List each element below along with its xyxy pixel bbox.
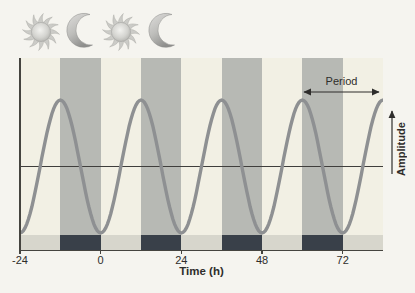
strip-night <box>302 235 342 250</box>
circadian-rhythm-figure: -240244872 Time (h) Period Amplitude <box>0 0 415 293</box>
strip-day <box>262 235 302 250</box>
strip-day <box>20 235 60 250</box>
strip-night <box>141 235 181 250</box>
moon-icon <box>62 6 100 54</box>
strip-night <box>222 235 262 250</box>
period-label: Period <box>302 75 381 87</box>
day-night-strip <box>20 235 383 250</box>
moon-icon <box>144 6 182 54</box>
x-axis-title: Time (h) <box>20 265 383 277</box>
rhythm-curve-path <box>20 100 383 233</box>
strip-night <box>60 235 100 250</box>
y-axis-line <box>19 58 21 250</box>
amplitude-label: Amplitude <box>395 110 407 176</box>
strip-day <box>343 235 383 250</box>
strip-day <box>101 235 141 250</box>
sun-icon <box>21 12 61 52</box>
strip-day <box>181 235 221 250</box>
sun-icon <box>101 12 141 52</box>
